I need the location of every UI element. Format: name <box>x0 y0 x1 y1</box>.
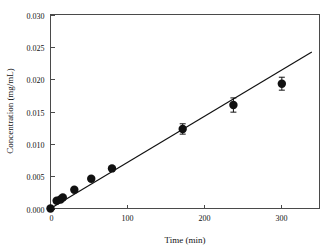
x-tick-label: 0 <box>50 214 54 223</box>
y-tick-label: 0.010 <box>27 141 45 150</box>
y-tick-label: 0.030 <box>27 12 45 21</box>
y-tick-label: 0.025 <box>27 44 45 53</box>
y-axis-tick-group <box>51 16 55 210</box>
data-point-group <box>46 79 286 212</box>
y-tick-label: 0.005 <box>27 173 45 182</box>
y-tick-label: 0.020 <box>27 76 45 85</box>
data-point-marker <box>278 79 286 87</box>
y-axis-title: Concentration (mg/mL) <box>5 68 15 154</box>
y-tick-label: 0.015 <box>27 109 45 118</box>
data-point-marker <box>59 193 67 201</box>
x-axis-tick-group <box>52 205 282 209</box>
concentration-vs-time-scatter-plot: 0.0000.0050.0100.0150.0200.0250.030 0100… <box>0 0 329 250</box>
x-axis-tick-labels: 0100200300 <box>50 214 288 223</box>
x-axis-title: Time (min) <box>165 235 206 245</box>
x-tick-label: 300 <box>276 214 288 223</box>
data-point-marker <box>178 125 186 133</box>
data-point-marker <box>70 186 78 194</box>
data-point-marker <box>46 204 54 212</box>
x-tick-label: 200 <box>199 214 211 223</box>
data-point-marker <box>87 175 95 183</box>
error-bar-group <box>54 77 285 202</box>
x-tick-label: 100 <box>122 214 134 223</box>
data-point-marker <box>229 101 237 109</box>
chart-figure: 0.0000.0050.0100.0150.0200.0250.030 0100… <box>0 0 329 250</box>
y-tick-label: 0.000 <box>27 206 45 215</box>
data-point-marker <box>108 164 116 172</box>
y-axis-tick-labels: 0.0000.0050.0100.0150.0200.0250.030 <box>27 12 45 215</box>
